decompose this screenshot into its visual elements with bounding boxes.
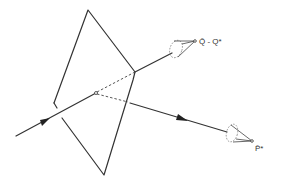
lower-cone-tip — [251, 140, 254, 143]
upper-ray-line — [135, 53, 172, 72]
plane-left-notch — [54, 103, 57, 108]
lower-arrow-icon — [176, 114, 188, 121]
scattering-diagram: Q̄ - Q* P̄* — [0, 0, 283, 181]
upper-cone-edge-2 — [178, 41, 195, 57]
lower-cone-edge-2 — [233, 141, 252, 142]
upper-ray-hidden-segment — [97, 72, 135, 92]
lower-ray-label: P̄* — [255, 144, 263, 153]
incident-ray-line — [16, 93, 96, 136]
upper-ray-label: Q̄ - Q* — [199, 37, 222, 46]
incident-arrow-icon — [40, 118, 50, 126]
upper-cone-tip — [194, 40, 197, 43]
lower-ray: P̄* — [130, 103, 263, 153]
lower-ray-hidden-segment — [97, 94, 128, 102]
upper-ray: Q̄ - Q* — [135, 37, 222, 72]
incident-ray — [16, 93, 96, 136]
lower-cone-edge-1 — [231, 125, 252, 141]
upper-cone-base — [167, 38, 184, 59]
